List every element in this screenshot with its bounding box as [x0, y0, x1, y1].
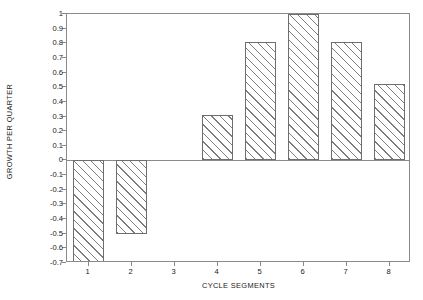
y-tick-label: -0.4: [50, 214, 63, 223]
bar-segment-2: [116, 160, 146, 233]
x-tick-mark: [174, 262, 175, 266]
y-tick-label: 0.1: [52, 140, 63, 149]
y-tick-label: 0.2: [52, 126, 63, 135]
y-tick-label: 0.3: [52, 111, 63, 120]
x-tick-label: 1: [85, 267, 89, 276]
y-tick-label: 0.6: [52, 67, 63, 76]
bar-segment-8: [374, 84, 404, 160]
x-tick-mark: [389, 262, 390, 266]
y-tick-label: -0.2: [50, 184, 63, 193]
y-tick-label: 0: [59, 155, 63, 164]
x-tick-label: 6: [300, 267, 304, 276]
x-tick-mark: [303, 262, 304, 266]
y-tick-label: 0.5: [52, 82, 63, 91]
plot-area: [66, 13, 410, 262]
y-tick-label: 0.4: [52, 96, 63, 105]
bar-segment-7: [331, 42, 361, 161]
bar-segment-1: [73, 160, 103, 262]
y-tick-label: 0.7: [52, 52, 63, 61]
x-tick-label: 8: [386, 267, 390, 276]
x-tick-mark: [131, 262, 132, 266]
y-tick-label: -0.1: [50, 170, 63, 179]
y-axis-title: GROWTH PER QUARTER: [0, 0, 20, 262]
x-tick-mark: [260, 262, 261, 266]
y-tick-label: -0.5: [50, 228, 63, 237]
x-axis-title: CYCLE SEGMENTS: [66, 281, 411, 290]
bar-chart-figure: GROWTH PER QUARTER 10.90.80.70.60.50.40.…: [0, 0, 423, 300]
y-tick-label: 1: [59, 9, 63, 18]
y-tick-label: 0.9: [52, 23, 63, 32]
y-tick-label: -0.6: [50, 243, 63, 252]
x-tick-mark: [346, 262, 347, 266]
bar-segment-4: [202, 115, 232, 160]
x-tick-label: 4: [214, 267, 218, 276]
x-tick-mark: [88, 262, 89, 266]
x-tick-mark: [217, 262, 218, 266]
x-tick-label: 7: [343, 267, 347, 276]
x-tick-label: 5: [257, 267, 261, 276]
y-tick-label: -0.3: [50, 199, 63, 208]
y-tick-label: 0.8: [52, 38, 63, 47]
y-axis-title-text: GROWTH PER QUARTER: [6, 83, 15, 178]
x-tick-label: 2: [128, 267, 132, 276]
y-tick-label: -0.7: [50, 258, 63, 267]
bar-segment-6: [288, 14, 318, 160]
x-tick-label: 3: [171, 267, 175, 276]
bar-segment-5: [245, 42, 275, 161]
